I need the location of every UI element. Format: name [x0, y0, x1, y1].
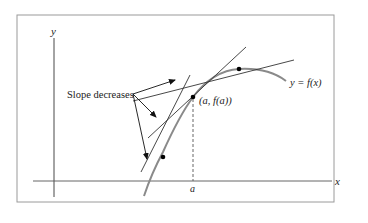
arrow-to-middle-tangent [133, 94, 156, 117]
curve-f [144, 69, 286, 196]
slope-decreases-label: Slope decreases [67, 89, 134, 100]
arrow-to-lower-tangent [133, 94, 147, 159]
tangent-line-lower [141, 75, 190, 172]
tangent-point-lower [161, 155, 166, 160]
y-axis-label: y [50, 25, 56, 37]
tangent-point-a [191, 95, 196, 100]
concavity-diagram: y x a Slope decreases (a, f(a)) y = f(x) [0, 0, 368, 223]
tangent-line-middle [148, 47, 246, 138]
curve-label: y = f(x) [289, 77, 322, 89]
a-tick-label: a [190, 183, 195, 194]
point-a-label: (a, f(a)) [199, 95, 232, 107]
x-axis-label: x [334, 175, 340, 187]
figure-frame [17, 15, 334, 202]
tangent-point-upper [237, 67, 242, 72]
